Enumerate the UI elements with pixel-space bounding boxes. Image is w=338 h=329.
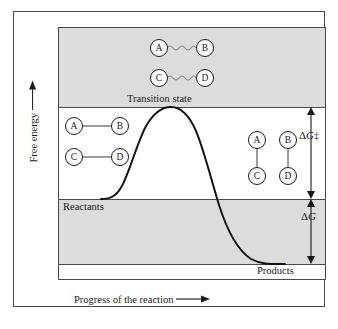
reactants-label: Reactants: [63, 202, 104, 213]
plot-area: Transition state Reactants Products A B …: [58, 27, 326, 280]
transition-state-molecules: A B C D: [147, 33, 225, 93]
atom-a-label: A: [71, 121, 78, 131]
atom-c-label: C: [254, 171, 260, 181]
x-axis-arrow-icon: [176, 295, 210, 306]
g-symbol: G: [308, 210, 316, 222]
partial-bond-cd: [167, 76, 196, 80]
activation-g-symbol: G: [306, 129, 314, 141]
atom-d-label: D: [285, 171, 292, 181]
x-axis-label: Progress of the reaction: [74, 295, 210, 306]
atom-b-label: B: [285, 135, 291, 145]
transition-state-label: Transition state: [127, 94, 192, 105]
atom-c-label: C: [71, 152, 77, 162]
y-axis-arrow-icon: [29, 80, 40, 110]
atom-a-label: A: [254, 135, 261, 145]
figure-frame: Free energy Progress of the reaction: [13, 11, 325, 307]
activation-energy-label: ΔG‡: [299, 130, 319, 141]
atom-d-label: D: [202, 73, 209, 83]
reaction-energy-diagram: Free energy Progress of the reaction: [0, 0, 338, 329]
y-axis-label: Free energy: [29, 66, 40, 176]
atom-a-label: A: [156, 43, 163, 53]
free-energy-change-arrow: [304, 199, 318, 264]
reactant-molecules: A B C D: [62, 111, 140, 173]
activation-energy-arrow: [304, 107, 318, 199]
atom-b-label: B: [117, 121, 123, 131]
y-axis-label-text: Free energy: [28, 113, 39, 163]
atom-b-label: B: [202, 43, 208, 53]
partial-bond-ab: [167, 46, 196, 50]
atom-c-label: C: [156, 73, 162, 83]
double-dagger-icon: ‡: [314, 130, 319, 141]
free-energy-change-label: ΔG: [301, 211, 316, 222]
x-axis-label-text: Progress of the reaction: [74, 294, 173, 305]
products-label: Products: [257, 266, 294, 277]
atom-d-label: D: [117, 152, 124, 162]
